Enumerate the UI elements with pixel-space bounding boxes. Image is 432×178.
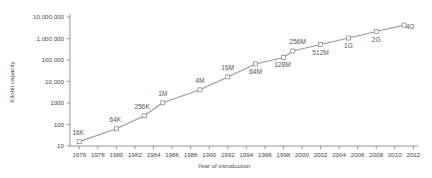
data-point-label: 256K <box>135 103 151 110</box>
data-point-marker <box>281 55 285 59</box>
x-tick-label: 2010 <box>388 151 402 158</box>
data-point-marker <box>198 88 202 92</box>
data-point-label: 1G <box>344 42 353 49</box>
x-tick-label: 2006 <box>351 151 365 158</box>
data-point-marker <box>319 43 323 47</box>
x-tick-label: 2004 <box>332 151 346 158</box>
x-tick-label: 1998 <box>277 151 291 158</box>
x-tick-label: 2008 <box>369 151 383 158</box>
data-point-marker <box>346 36 350 40</box>
y-tick-label: 1,000,000 <box>36 35 64 42</box>
x-tick-label: 2002 <box>314 151 328 158</box>
data-point-marker <box>142 114 146 118</box>
data-point-marker <box>226 75 230 79</box>
x-tick-label: 2000 <box>295 151 309 158</box>
y-axis-title: Kilobit capacity <box>8 60 15 102</box>
data-point-label: 16M <box>221 64 234 71</box>
data-point-label: 1M <box>158 90 167 97</box>
x-tick-label: 1994 <box>239 151 253 158</box>
x-tick-label: 1992 <box>221 151 235 158</box>
chart-container: 10,000,0001,000,000100,00010,00010001001… <box>0 0 432 178</box>
x-tick-label: 1990 <box>202 151 216 158</box>
data-point-marker <box>374 30 378 34</box>
data-point-label: 512M <box>312 49 329 56</box>
data-point-marker <box>161 101 165 105</box>
data-point-label: 2G <box>372 36 381 43</box>
x-tick-label: 1986 <box>165 151 179 158</box>
x-tick-label: 1976 <box>72 151 86 158</box>
data-point-marker <box>254 62 258 66</box>
y-tick-label: 10,000 <box>45 78 64 85</box>
x-tick-label: 2012 <box>406 151 420 158</box>
data-point-label: 256M <box>289 38 306 45</box>
data-point-marker <box>77 140 81 144</box>
data-point-label: 16K <box>72 129 84 136</box>
y-tick-label: 10,000,000 <box>33 13 65 20</box>
x-axis-title: Year of introduction <box>197 162 251 169</box>
data-point-label: 128M <box>274 61 291 68</box>
data-point-marker <box>114 127 118 131</box>
x-tick-label: 1978 <box>91 151 105 158</box>
data-point-label: 4G <box>406 23 415 30</box>
y-tick-label: 100 <box>54 121 65 128</box>
x-tick-label: 1996 <box>258 151 272 158</box>
data-point-label: 64K <box>110 116 122 123</box>
x-tick-label: 1988 <box>184 151 198 158</box>
data-point-label: 4M <box>195 77 204 84</box>
x-tick-label: 1982 <box>128 151 142 158</box>
data-point-label: 64M <box>249 68 262 75</box>
y-tick-label: 1000 <box>50 99 64 106</box>
data-point-marker <box>291 49 295 53</box>
y-tick-label: 10 <box>57 142 64 149</box>
x-tick-label: 1984 <box>147 151 161 158</box>
y-tick-label: 100,000 <box>42 56 65 63</box>
capacity-vs-year-line-chart: 10,000,0001,000,000100,00010,00010001001… <box>0 0 432 178</box>
x-tick-label: 1980 <box>110 151 124 158</box>
